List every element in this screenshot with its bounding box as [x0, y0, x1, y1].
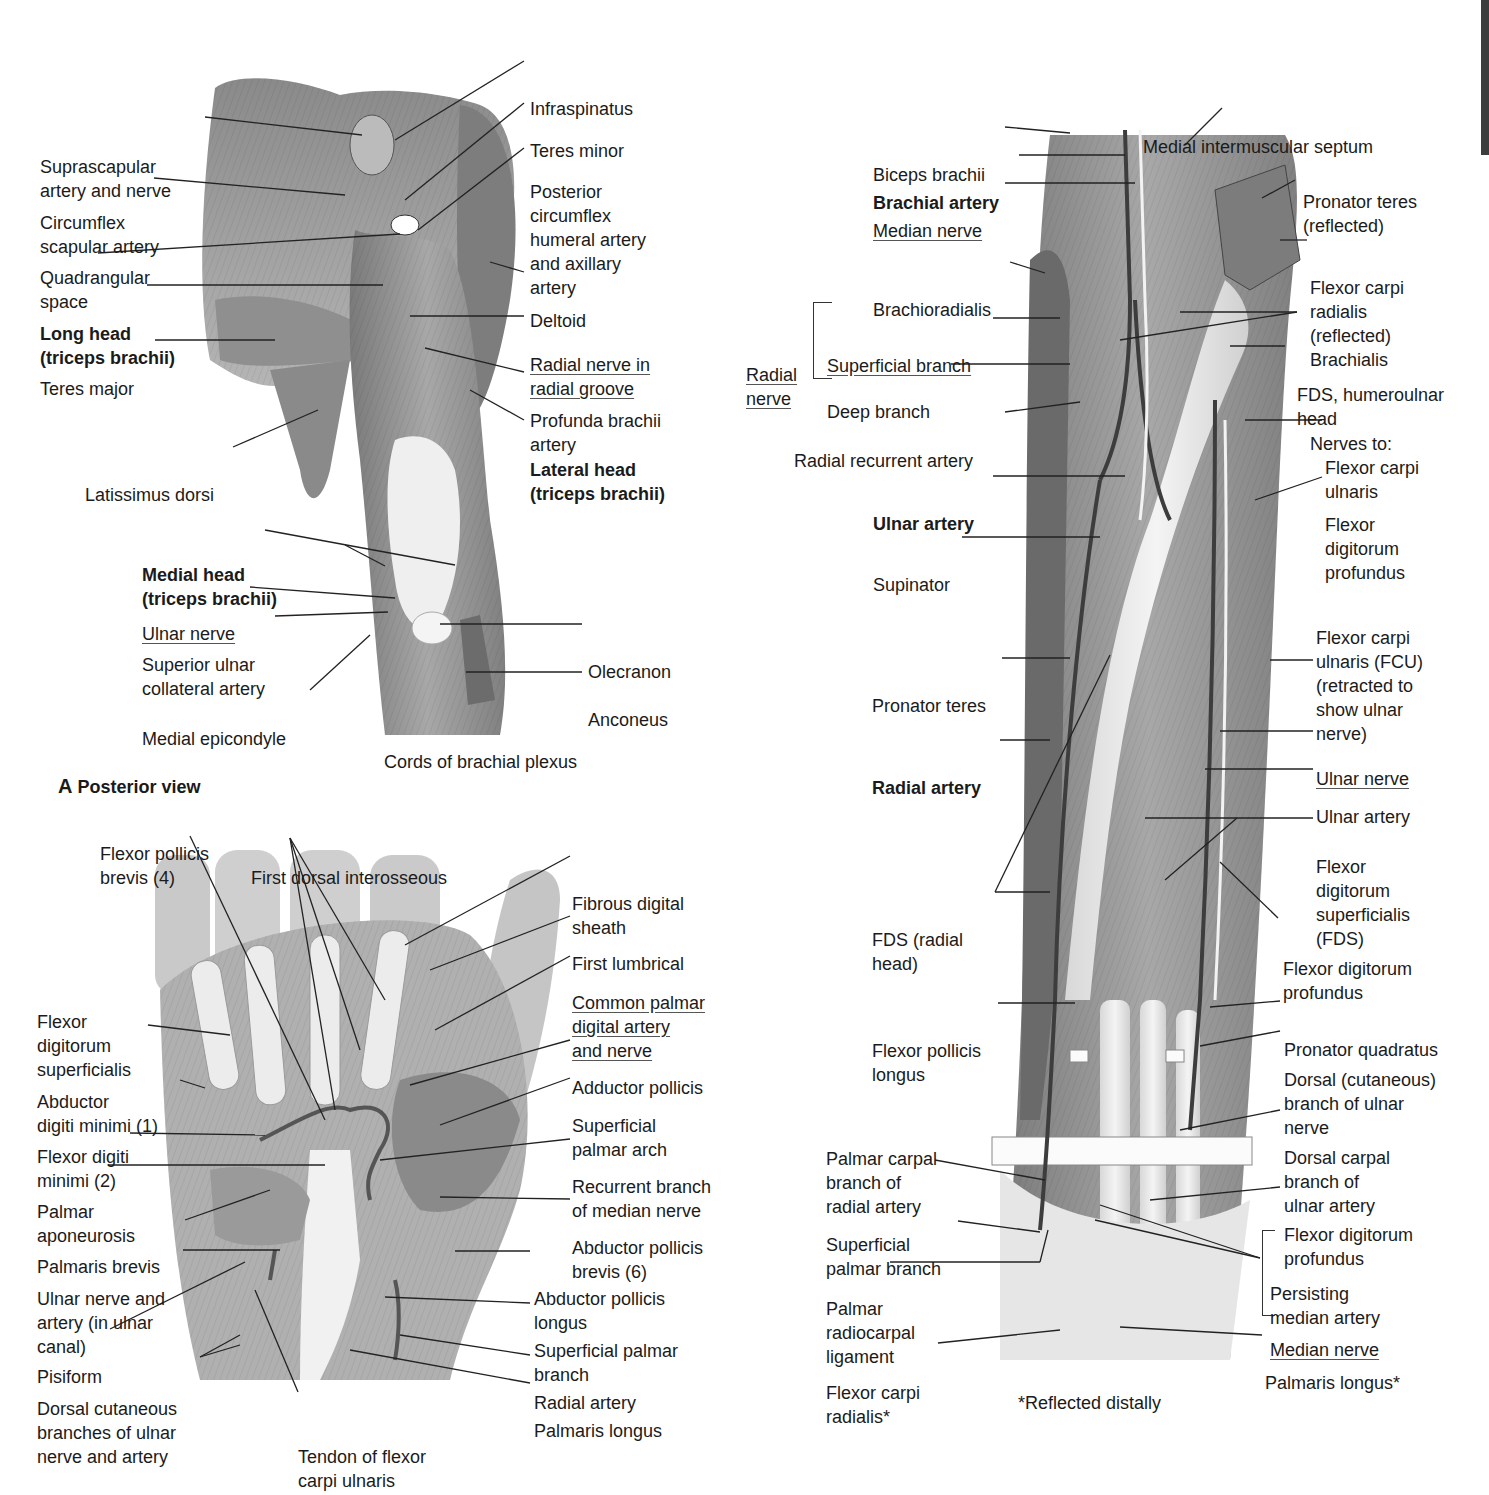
label-radial-artery: Radial artery: [872, 728, 981, 848]
label-flexor-pollicis-brevis: Flexor pollicisbrevis (4): [100, 794, 209, 938]
label-anconeus: Anconeus: [588, 660, 668, 780]
label-flexor-carpi-radialis-star: Flexor carpiradialis*: [826, 1333, 920, 1477]
label-palmaris-longus-hand: Palmaris longus: [534, 1371, 662, 1491]
label-lateral-head: Lateral head(triceps brachii): [530, 410, 665, 554]
page-edge-tab: [1481, 0, 1489, 155]
forearm-footnote: *Reflected distally: [1018, 1391, 1161, 1415]
label-first-dorsal-interosseous: First dorsal interosseous: [251, 818, 447, 938]
label-supinator: Supinator: [873, 525, 950, 645]
label-radial-nerve-group: Radialnerve: [746, 315, 797, 459]
label-palmaris-longus-star: Palmaris longus*: [1265, 1323, 1400, 1443]
panel-a-subcaption: Cords of brachial plexus: [384, 750, 577, 774]
label-tendon-fcu: Tendon of flexorcarpi ulnaris: [298, 1397, 426, 1495]
label-dorsal-cutaneous-branches: Dorsal cutaneousbranches of ulnarnerve a…: [37, 1349, 177, 1495]
label-teres-major: Teres major: [40, 329, 134, 449]
